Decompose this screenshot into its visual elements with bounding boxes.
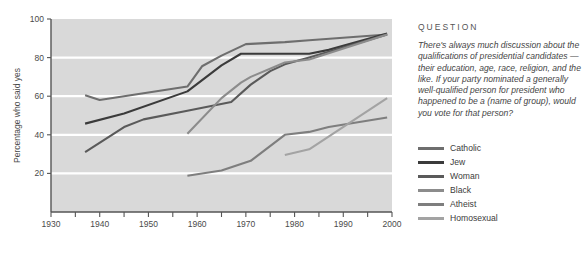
line-chart: 20406080100 1930194019501960197019801990… <box>0 0 410 254</box>
x-tick-label: 1940 <box>90 219 109 229</box>
question-text: There's always much discussion about the… <box>418 40 581 119</box>
legend-swatch-icon <box>418 189 444 192</box>
legend-item[interactable]: Woman <box>418 169 578 183</box>
y-tick-label: 40 <box>35 130 45 140</box>
x-tick-label: 1970 <box>236 219 255 229</box>
figure-root: 20406080100 1930194019501960197019801990… <box>0 0 583 254</box>
y-tick-label: 100 <box>30 14 44 24</box>
x-tick-label: 1980 <box>285 219 304 229</box>
y-tick-label: 20 <box>35 168 45 178</box>
y-axis-title-group: Percentage who said yes <box>12 68 22 163</box>
chart-area: 20406080100 1930194019501960197019801990… <box>0 0 410 254</box>
x-tick-label: 1930 <box>42 219 61 229</box>
y-tick-label: 60 <box>35 91 45 101</box>
x-tick-label: 1990 <box>334 219 353 229</box>
legend-label: Atheist <box>450 199 476 209</box>
x-tick-label: 1960 <box>188 219 207 229</box>
legend-item[interactable]: Catholic <box>418 141 578 155</box>
legend-swatch-icon <box>418 217 444 220</box>
x-tick-labels-group: 19301940195019601970198019902000 <box>42 219 402 229</box>
legend: CatholicJewWomanBlackAtheistHomosexual <box>418 141 578 225</box>
legend-label: Catholic <box>450 143 481 153</box>
legend-swatch-icon <box>418 147 444 150</box>
legend-swatch-icon <box>418 161 444 164</box>
legend-label: Woman <box>450 171 479 181</box>
x-tick-label: 2000 <box>383 219 402 229</box>
legend-swatch-icon <box>418 203 444 206</box>
legend-label: Homosexual <box>450 213 498 223</box>
legend-item[interactable]: Homosexual <box>418 211 578 225</box>
y-tick-labels-group: 20406080100 <box>30 14 44 178</box>
y-axis-title: Percentage who said yes <box>12 68 22 163</box>
side-panel: QUESTION There's always much discussion … <box>414 0 583 254</box>
legend-label: Jew <box>450 157 465 167</box>
legend-item[interactable]: Black <box>418 183 578 197</box>
y-tick-label: 80 <box>35 53 45 63</box>
legend-item[interactable]: Jew <box>418 155 578 169</box>
legend-item[interactable]: Atheist <box>418 197 578 211</box>
legend-swatch-icon <box>418 175 444 178</box>
legend-label: Black <box>450 185 471 195</box>
x-tick-label: 1950 <box>139 219 158 229</box>
question-heading: QUESTION <box>418 22 478 32</box>
